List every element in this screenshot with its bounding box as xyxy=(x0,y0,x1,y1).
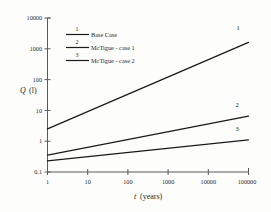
y-tick-label-100: 100 xyxy=(33,76,42,83)
chart-figure: 10000 1000 100 10 1 0.1 1 10 100 1000 10… xyxy=(0,0,271,212)
legend-number-3: 3 xyxy=(76,52,79,58)
y-tick-label-0.1: 0.1 xyxy=(34,168,42,175)
legend-label-mctigue-case-1: McTigue - case 1 xyxy=(91,44,135,51)
legend-number-2: 2 xyxy=(76,39,79,45)
x-tick-label-1000: 1000 xyxy=(162,178,174,185)
curve-label-1: 1 xyxy=(236,24,239,31)
chart-legend: 1 Base Case 2 McTigue - case 1 3 McTigue… xyxy=(66,26,135,64)
curve-3-mctigue-case-2 xyxy=(48,140,249,161)
x-tick-label-100000: 100000 xyxy=(238,178,257,185)
curve-label-3: 3 xyxy=(235,125,238,132)
log-log-plot: 10000 1000 100 10 1 0.1 1 10 100 1000 10… xyxy=(0,0,271,212)
legend-label-base-case: Base Case xyxy=(91,31,117,38)
curve-label-2: 2 xyxy=(235,101,238,108)
x-axis-title-unit: (years) xyxy=(140,192,163,201)
x-tick-label-100: 100 xyxy=(123,178,132,185)
x-tick-labels: 1 10 100 1000 10000 100000 xyxy=(46,178,256,185)
x-tick-label-10000: 10000 xyxy=(201,178,216,185)
x-axis-title-symbol: t xyxy=(134,192,137,201)
y-tick-label-1: 1 xyxy=(39,137,42,144)
y-tick-label-10: 10 xyxy=(36,107,42,114)
y-tick-label-1000: 1000 xyxy=(30,45,42,52)
legend-number-1: 1 xyxy=(76,26,79,32)
y-axis-title-symbol: Q xyxy=(20,86,26,95)
y-tick-label-10000: 10000 xyxy=(27,14,42,21)
legend-label-mctigue-case-2: McTigue - case 2 xyxy=(91,57,135,64)
x-tick-label-10: 10 xyxy=(85,178,91,185)
x-tick-label-1: 1 xyxy=(46,178,49,185)
curve-2-mctigue-case-1 xyxy=(48,116,249,155)
y-axis-title-unit: (l) xyxy=(29,86,37,95)
curve-end-labels: 1 2 3 xyxy=(235,24,239,132)
